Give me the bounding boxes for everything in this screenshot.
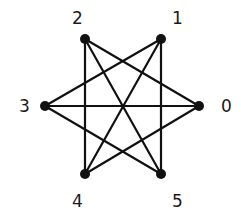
node-0 <box>194 101 204 111</box>
node-label-1: 1 <box>172 8 183 28</box>
node-1 <box>156 34 166 44</box>
edges-group <box>45 39 199 174</box>
graph-diagram: 012345 <box>0 0 241 214</box>
node-label-4: 4 <box>72 191 83 211</box>
node-5 <box>156 169 166 179</box>
node-label-0: 0 <box>221 96 232 116</box>
node-label-3: 3 <box>19 96 30 116</box>
node-4 <box>80 169 90 179</box>
node-3 <box>40 101 50 111</box>
node-2 <box>80 34 90 44</box>
node-label-2: 2 <box>72 8 83 28</box>
node-label-5: 5 <box>172 191 183 211</box>
